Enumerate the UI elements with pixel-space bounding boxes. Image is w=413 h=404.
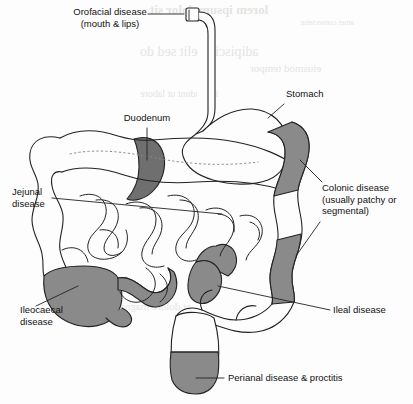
rectum [170,312,218,394]
label-orofacial-disease: Orofacial disease (mouth & lips) [72,6,148,29]
label-jejunal-disease: Jejunal disease [12,186,45,209]
label-ileal-disease: Ileal disease [333,304,386,316]
leader-jejunal [52,198,222,214]
label-ileocaecal-disease: Ileocaecal disease [20,304,63,327]
label-perianal-disease: Perianal disease & proctitis [228,372,343,384]
mouth-and-oesophagus [186,8,215,134]
leader-stomach [268,104,284,118]
label-stomach: Stomach [286,88,324,100]
label-colonic-disease: Colonic disease (usually patchy or segme… [322,182,396,217]
ileal-segment [188,244,237,303]
figure-canvas: lorem ipsum dolor sit amet consectetur a… [0,0,413,404]
duodenum [127,137,165,200]
label-duodenum: Duodenum [112,112,182,124]
